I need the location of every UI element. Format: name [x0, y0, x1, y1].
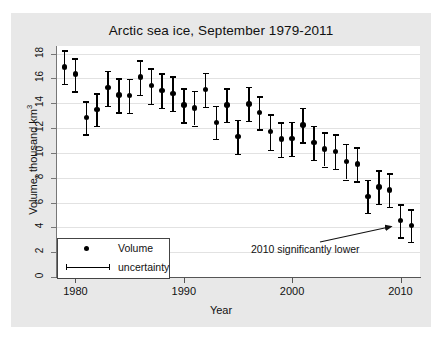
- x-tick: [292, 278, 293, 283]
- data-point: [116, 92, 121, 97]
- error-bar-cap: [159, 73, 165, 74]
- x-tick-label: 2010: [381, 285, 421, 297]
- error-bar-cap: [105, 106, 111, 107]
- error-bar-cap: [235, 120, 241, 121]
- error-bar-cap: [257, 96, 263, 97]
- data-point: [387, 187, 392, 192]
- error-bar-cap: [203, 73, 209, 74]
- error-bar-cap: [127, 79, 133, 80]
- data-point: [149, 83, 154, 88]
- error-bar-cap: [181, 88, 187, 89]
- error-bar-cap: [62, 50, 68, 51]
- legend-item-volume: Volume: [58, 239, 171, 259]
- error-bar-cap: [62, 84, 68, 85]
- error-bar-cap: [300, 142, 306, 143]
- legend-item-uncertainty: uncertainty: [58, 258, 171, 278]
- y-tick: [51, 103, 56, 104]
- data-point: [289, 136, 294, 141]
- error-bar-cap: [257, 129, 263, 130]
- error-bar-cap: [137, 95, 143, 96]
- error-bar-cap: [376, 170, 382, 171]
- error-bar-cap: [116, 78, 122, 79]
- error-bar-cap: [137, 60, 143, 61]
- x-tick-label: 2000: [272, 285, 312, 297]
- error-bar-cap: [72, 58, 78, 59]
- error-bar-cap: [246, 87, 252, 88]
- y-axis-label-text: Volume, thousand km: [27, 109, 39, 215]
- x-axis-label: Year: [11, 304, 431, 316]
- data-point: [322, 146, 327, 151]
- error-bar-cap: [148, 104, 154, 105]
- error-bar-cap: [170, 76, 176, 77]
- error-bar-cap: [387, 207, 393, 208]
- y-tick: [51, 252, 56, 253]
- data-point: [235, 134, 240, 139]
- gridline: [57, 103, 420, 104]
- error-bar-cap: [105, 71, 111, 72]
- data-point: [62, 64, 67, 69]
- legend-dot-icon: [84, 246, 89, 251]
- data-point: [84, 115, 89, 120]
- error-bar-cap: [408, 242, 414, 243]
- error-bar-cap: [127, 113, 133, 114]
- error-bar-cap: [83, 101, 89, 102]
- data-point: [127, 93, 132, 98]
- error-bar-cap: [333, 134, 339, 135]
- error-bar-cap: [246, 121, 252, 122]
- y-axis-label: Volume, thousand km3: [25, 80, 39, 240]
- data-point: [376, 184, 381, 189]
- gridline: [57, 203, 420, 204]
- y-tick: [51, 78, 56, 79]
- error-bar-cap: [192, 126, 198, 127]
- error-bar-cap: [170, 111, 176, 112]
- data-point: [159, 88, 164, 93]
- error-bar-cap: [354, 181, 360, 182]
- error-bar-cap: [333, 169, 339, 170]
- data-point: [311, 140, 316, 145]
- data-point: [138, 74, 143, 79]
- error-bar-cap: [300, 108, 306, 109]
- error-bar-cap: [148, 68, 154, 69]
- y-tick: [51, 277, 56, 278]
- error-bar-cap: [213, 106, 219, 107]
- data-point: [398, 218, 403, 223]
- x-tick-label: 1980: [55, 285, 95, 297]
- gridline: [57, 178, 420, 179]
- data-point: [355, 161, 360, 166]
- error-bar-cap: [224, 122, 230, 123]
- y-tick-label: 18: [34, 42, 45, 62]
- y-axis-label-exponent: 3: [25, 105, 34, 109]
- error-bar-cap: [278, 157, 284, 158]
- error-bar-cap: [181, 122, 187, 123]
- y-tick: [51, 203, 56, 204]
- chart-figure: Arctic sea ice, September 1979-2011 0246…: [11, 13, 431, 327]
- x-tick: [184, 278, 185, 283]
- error-bar-cap: [365, 213, 371, 214]
- data-point: [214, 120, 219, 125]
- error-bar-cap: [268, 114, 274, 115]
- error-bar-cap: [224, 88, 230, 89]
- y-tick: [51, 128, 56, 129]
- error-bar-cap: [203, 107, 209, 108]
- error-bar-cap: [192, 91, 198, 92]
- error-bar-cap: [311, 126, 317, 127]
- error-bar-cap: [408, 209, 414, 210]
- error-bar-cap: [289, 122, 295, 123]
- data-point: [257, 110, 262, 115]
- gridline: [57, 227, 420, 228]
- data-point: [94, 107, 99, 112]
- y-tick-label: 2: [34, 241, 45, 261]
- error-bar-cap: [72, 91, 78, 92]
- data-point: [300, 122, 305, 127]
- error-bar-cap: [289, 156, 295, 157]
- data-point: [192, 105, 197, 110]
- data-point: [73, 71, 78, 76]
- error-bar-cap: [213, 139, 219, 140]
- data-point: [105, 85, 110, 90]
- data-point: [365, 194, 370, 199]
- y-tick: [51, 54, 56, 55]
- error-bar-cap: [365, 180, 371, 181]
- data-point: [203, 87, 208, 92]
- error-bar-cap: [376, 204, 382, 205]
- error-bar-cap: [398, 237, 404, 238]
